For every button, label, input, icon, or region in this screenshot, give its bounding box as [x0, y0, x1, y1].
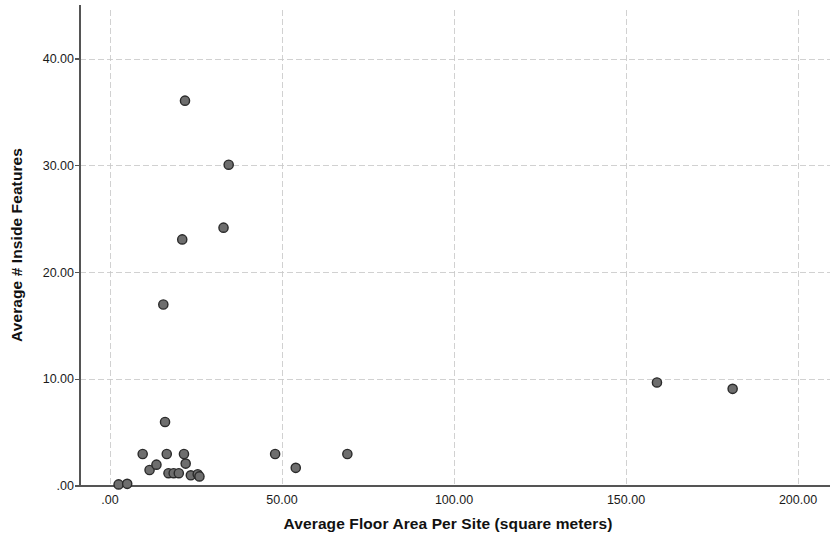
data-point: [180, 96, 189, 105]
data-point: [162, 449, 171, 458]
data-point: [224, 160, 233, 169]
data-point: [291, 463, 300, 472]
data-point: [138, 449, 147, 458]
data-point: [181, 459, 190, 468]
plot-canvas: [0, 0, 838, 543]
data-point: [195, 472, 204, 481]
data-point: [728, 384, 737, 393]
gridlines: [80, 10, 830, 486]
data-point: [271, 449, 280, 458]
data-point: [174, 469, 183, 478]
data-points-group: [114, 96, 737, 489]
data-point: [123, 479, 132, 488]
data-point: [219, 223, 228, 232]
data-point: [179, 449, 188, 458]
axis-lines: [75, 5, 830, 486]
data-point: [652, 378, 661, 387]
scatter-plot-figure: Average # Inside Features .0010.0020.003…: [0, 0, 838, 543]
data-point: [343, 449, 352, 458]
data-point: [160, 417, 169, 426]
data-point: [159, 300, 168, 309]
data-point: [178, 235, 187, 244]
data-point: [114, 480, 123, 489]
x-axis-title-text: Average Floor Area Per Site (square mete…: [284, 515, 613, 533]
x-axis-title: Average Floor Area Per Site (square mete…: [0, 515, 838, 533]
data-point: [152, 460, 161, 469]
